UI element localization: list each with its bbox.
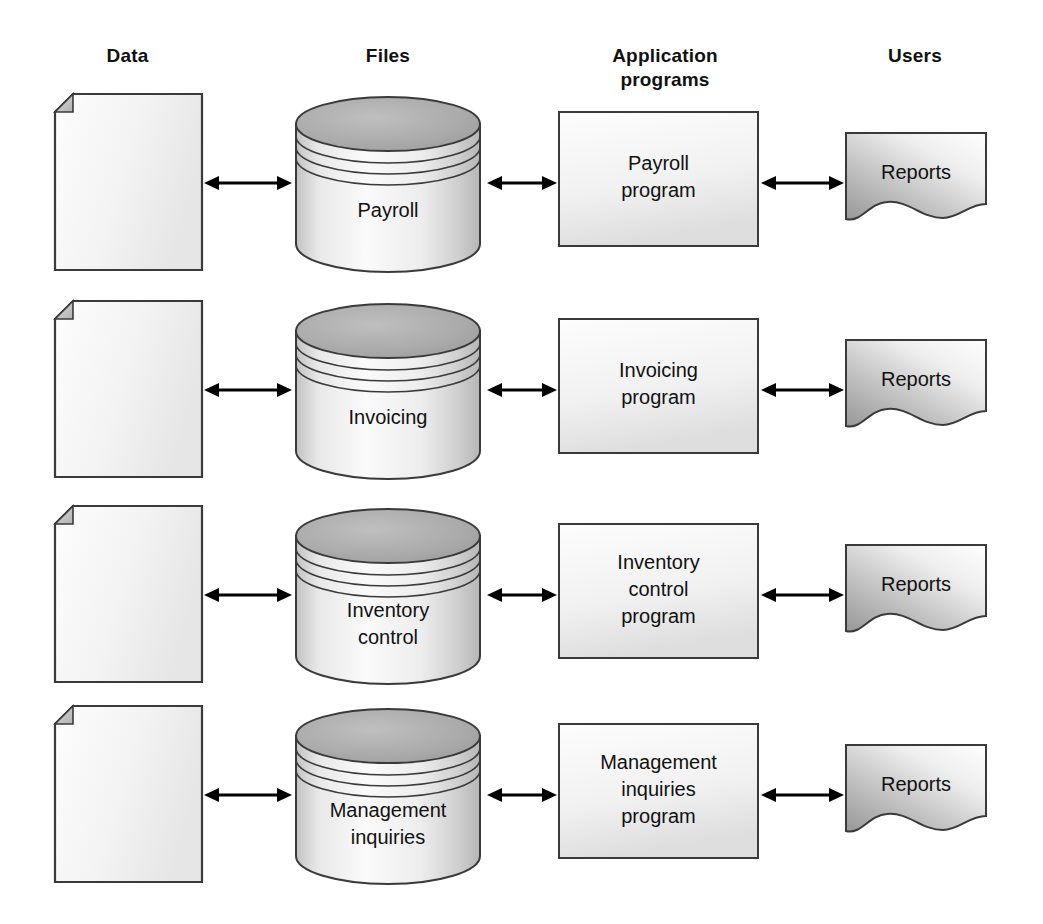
diagram-canvas: Data Files Application programs Users	[0, 0, 1043, 924]
program-label-line-3: program	[621, 805, 695, 827]
program-label-line-2: inquiries	[621, 778, 695, 800]
user-reports-management-inquiries[interactable]: Reports	[843, 742, 989, 840]
column-heading-data: Data	[55, 44, 200, 68]
document-icon	[55, 301, 202, 477]
program-label-line-1: Inventory	[617, 551, 699, 573]
document-icon	[55, 706, 202, 882]
arrow-file-to-program-invoicing[interactable]	[487, 379, 557, 401]
program-label-line-2: program	[621, 386, 695, 408]
diagram-row-payroll: Payroll Payroll program	[0, 90, 1043, 275]
file-cylinder-payroll[interactable]: Payroll	[290, 96, 486, 272]
diagram-row-management-inquiries: Management inquiries Management inquirie…	[0, 702, 1043, 887]
user-reports-invoicing[interactable]: Reports	[843, 337, 989, 435]
file-cylinder-management-inquiries[interactable]: Management inquiries	[290, 708, 486, 884]
arrow-data-to-file-inventory-control[interactable]	[204, 584, 292, 606]
document-icon	[55, 506, 202, 682]
user-reports-payroll[interactable]: Reports	[843, 130, 989, 228]
arrow-data-to-file-invoicing[interactable]	[204, 379, 292, 401]
diagram-row-invoicing: Invoicing Invoicing program	[0, 297, 1043, 482]
user-reports-label: Reports	[881, 161, 951, 183]
file-cylinder-inventory-control[interactable]: Inventory control	[290, 508, 486, 684]
user-reports-label: Reports	[881, 368, 951, 390]
file-cylinder-label-line-2: control	[358, 626, 418, 648]
data-document-management-inquiries[interactable]	[53, 704, 203, 884]
arrow-program-to-user-management-inquiries[interactable]	[761, 784, 844, 806]
arrow-file-to-program-inventory-control[interactable]	[487, 584, 557, 606]
database-cylinder-icon	[296, 509, 480, 684]
database-cylinder-icon	[296, 709, 480, 884]
program-label-line-1: Management	[600, 751, 717, 773]
application-program-box-management-inquiries[interactable]: Management inquiries program	[557, 722, 760, 860]
column-heading-application-programs: Application programs	[540, 44, 790, 92]
program-label-line-2: program	[621, 179, 695, 201]
user-reports-label: Reports	[881, 573, 951, 595]
application-program-box-invoicing[interactable]: Invoicing program	[557, 317, 760, 455]
file-cylinder-label-line-1: Inventory	[347, 599, 429, 621]
column-heading-users: Users	[840, 44, 990, 68]
program-label-line-2: control	[628, 578, 688, 600]
data-document-inventory-control[interactable]	[53, 504, 203, 684]
column-heading-files: Files	[293, 44, 483, 68]
program-label-line-1: Payroll	[628, 152, 689, 174]
arrow-data-to-file-management-inquiries[interactable]	[204, 784, 292, 806]
page-fold-corner-icon	[55, 94, 73, 112]
database-cylinder-icon	[296, 304, 480, 479]
user-reports-label: Reports	[881, 773, 951, 795]
arrow-program-to-user-payroll[interactable]	[761, 172, 844, 194]
file-cylinder-invoicing[interactable]: Invoicing	[290, 303, 486, 479]
file-cylinder-label-line-1: Management	[330, 799, 447, 821]
arrow-file-to-program-payroll[interactable]	[487, 172, 557, 194]
diagram-row-inventory-control: Inventory control Inventory control prog…	[0, 502, 1043, 687]
file-cylinder-label-line-2: inquiries	[351, 826, 425, 848]
data-document-invoicing[interactable]	[53, 299, 203, 479]
application-program-box-payroll[interactable]: Payroll program	[557, 110, 760, 248]
file-cylinder-label: Payroll	[357, 199, 418, 221]
application-program-box-inventory-control[interactable]: Inventory control program	[557, 522, 760, 660]
program-label-line-3: program	[621, 605, 695, 627]
page-fold-corner-icon	[55, 301, 73, 319]
arrow-program-to-user-invoicing[interactable]	[761, 379, 844, 401]
file-cylinder-label: Invoicing	[349, 406, 428, 428]
user-reports-inventory-control[interactable]: Reports	[843, 542, 989, 640]
arrow-data-to-file-payroll[interactable]	[204, 172, 292, 194]
arrow-program-to-user-inventory-control[interactable]	[761, 584, 844, 606]
arrow-file-to-program-management-inquiries[interactable]	[487, 784, 557, 806]
database-cylinder-icon	[296, 97, 480, 272]
page-fold-corner-icon	[55, 506, 73, 524]
data-document-payroll[interactable]	[53, 92, 203, 272]
document-icon	[55, 94, 202, 270]
program-label-line-1: Invoicing	[619, 359, 698, 381]
page-fold-corner-icon	[55, 706, 73, 724]
